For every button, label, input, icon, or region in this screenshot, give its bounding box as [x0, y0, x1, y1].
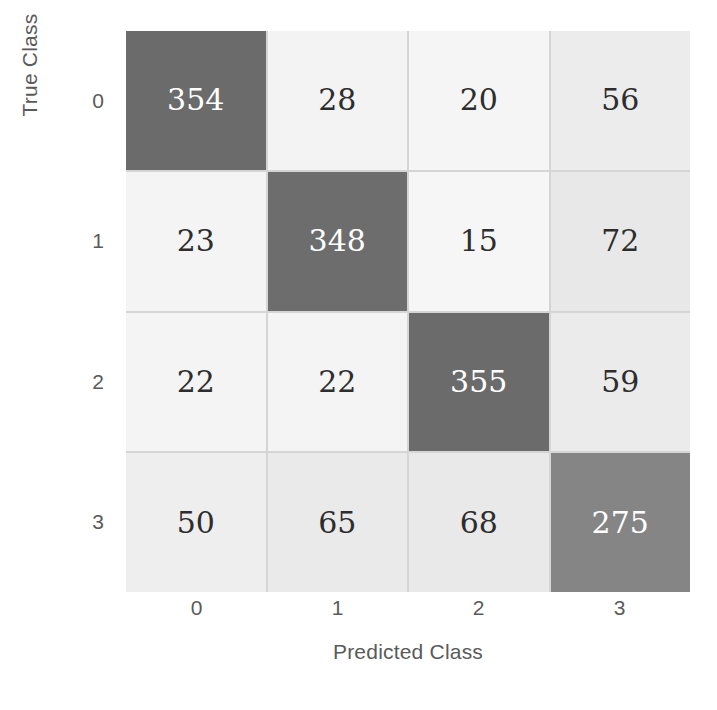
y-axis-title: True Class [10, 0, 50, 210]
y-tick-3: 3 [62, 452, 108, 592]
matrix-cell-value: 355 [450, 367, 507, 397]
matrix-cell: 22 [268, 313, 408, 452]
x-tick-0: 0 [126, 596, 267, 630]
matrix-cell-value: 354 [167, 85, 224, 115]
matrix-cell: 72 [551, 172, 691, 311]
y-tick-0: 0 [62, 31, 108, 171]
matrix-cell: 56 [551, 31, 691, 170]
matrix-cell: 68 [409, 453, 549, 592]
matrix-cell: 20 [409, 31, 549, 170]
matrix-cell-value: 22 [177, 367, 215, 397]
matrix-cell: 15 [409, 172, 549, 311]
matrix-cell-value: 68 [460, 508, 498, 538]
matrix-cell: 355 [409, 313, 549, 452]
matrix-cell-value: 56 [601, 85, 639, 115]
matrix-grid: 354 28 20 56 23 348 15 72 22 22 355 59 5… [126, 31, 690, 592]
matrix-cell-value: 28 [318, 85, 356, 115]
matrix-cell-value: 59 [601, 367, 639, 397]
matrix-cell-value: 72 [601, 226, 639, 256]
matrix-cell-value: 23 [177, 226, 215, 256]
matrix-cell-value: 65 [318, 508, 356, 538]
matrix-cell-value: 22 [318, 367, 356, 397]
y-tick-1: 1 [62, 171, 108, 311]
matrix-cell-value: 348 [309, 226, 366, 256]
matrix-cell: 275 [551, 453, 691, 592]
x-tick-1: 1 [267, 596, 408, 630]
confusion-matrix-figure: True Class 0 1 2 3 354 28 20 56 23 348 1… [0, 0, 717, 710]
matrix-cell: 22 [126, 313, 266, 452]
matrix-cell: 65 [268, 453, 408, 592]
x-tick-3: 3 [549, 596, 690, 630]
matrix-cell: 50 [126, 453, 266, 592]
matrix-cell: 354 [126, 31, 266, 170]
x-axis-title: Predicted Class [126, 640, 690, 664]
matrix-cell-value: 50 [177, 508, 215, 538]
matrix-cell: 59 [551, 313, 691, 452]
y-axis-tick-labels: 0 1 2 3 [62, 31, 108, 592]
x-axis-tick-labels: 0 1 2 3 [126, 596, 690, 630]
x-tick-2: 2 [408, 596, 549, 630]
matrix-cell: 348 [268, 172, 408, 311]
matrix-cell: 28 [268, 31, 408, 170]
y-tick-2: 2 [62, 312, 108, 452]
matrix-cell-value: 275 [592, 508, 649, 538]
matrix-cell-value: 15 [460, 226, 498, 256]
matrix-cell: 23 [126, 172, 266, 311]
matrix-cell-value: 20 [460, 85, 498, 115]
